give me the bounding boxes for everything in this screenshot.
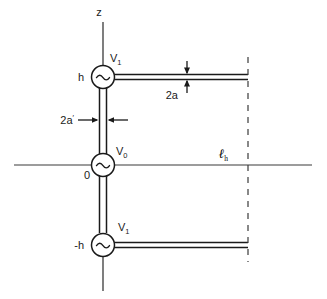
upper-height-label: h	[78, 71, 84, 83]
origin-source-voltage-subscript: 0	[123, 151, 127, 160]
origin-source-voltage-label: V0	[116, 145, 128, 160]
2a-upper-arrow-head	[184, 68, 190, 75]
origin-ac-source	[92, 154, 115, 177]
origin-label: 0	[84, 169, 90, 181]
upper-ac-source	[92, 66, 115, 89]
lower-source-voltage-label: V1	[118, 221, 130, 236]
upper-source-voltage-subscript: 1	[117, 58, 121, 67]
z-axis-label: z	[96, 6, 102, 18]
2a-prime-dimension-arrows	[78, 117, 128, 123]
horizontal-length-subscript: h	[224, 154, 228, 163]
horizontal-length-label: ℓh	[219, 146, 228, 163]
2a-lower-arrow-head	[184, 80, 190, 87]
lower-ac-source	[92, 234, 115, 257]
upper-source-voltage-label: V1	[110, 52, 122, 67]
2a-dimension-arrows	[184, 61, 190, 93]
antenna-diagram-figure: z V1 h 2a 2a′ V0 0 ℓh V1 -h	[0, 0, 327, 299]
diagram-canvas: z V1 h 2a 2a′ V0 0 ℓh V1 -h	[0, 0, 327, 299]
feedline-diameter-label: 2a′	[60, 113, 74, 126]
feedline-diameter-prime: ′	[73, 113, 75, 122]
lower-source-voltage-subscript: 1	[125, 227, 129, 236]
feedline-diameter-text: 2a	[60, 114, 73, 126]
2a-prime-right-arrow-head	[108, 117, 114, 123]
2a-prime-left-arrow-head	[92, 117, 98, 123]
lower-height-label: -h	[74, 239, 84, 251]
conductor-diameter-label: 2a	[166, 89, 179, 101]
